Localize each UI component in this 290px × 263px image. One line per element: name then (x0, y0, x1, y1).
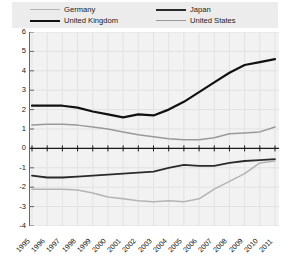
legend-swatch-united-kingdom (30, 20, 60, 22)
y-tick-label: -2 (2, 183, 26, 191)
plot-region: 6543210-1-2-3-4 199519961997199819992000… (0, 30, 290, 263)
x-tick-label: 2008 (211, 236, 229, 254)
x-tick-label: 2004 (151, 236, 169, 254)
series-canvas (30, 32, 279, 226)
chart-legend: Germany Japan United Kingdom United Stat… (12, 2, 278, 28)
legend-label-united-kingdom: United Kingdom (64, 16, 118, 26)
legend-label-japan: Japan (190, 5, 211, 15)
legend-item-germany: Germany (30, 4, 126, 15)
y-tick-label: -1 (2, 164, 26, 172)
legend-item-japan: Japan (156, 4, 236, 15)
x-tick-label: 1996 (29, 236, 47, 254)
x-tick-label: 2001 (105, 236, 123, 254)
y-tick-label: 1 (2, 125, 26, 133)
x-tick-label: 1997 (44, 236, 62, 254)
chart-figure: Germany Japan United Kingdom United Stat… (0, 0, 290, 263)
x-tick-label: 2007 (196, 236, 214, 254)
x-tick-label: 2011 (257, 237, 274, 254)
legend-label-united-states: United States (190, 16, 236, 26)
x-tick-label: 2002 (120, 236, 138, 254)
y-tick-label: 3 (2, 86, 26, 94)
x-tick-label: 2005 (166, 236, 184, 254)
y-tick-label: 0 (2, 144, 26, 152)
y-tick-label: 4 (2, 67, 26, 75)
plot-area (29, 32, 279, 226)
y-axis: 6543210-1-2-3-4 (0, 32, 26, 226)
legend-swatch-germany (30, 9, 60, 10)
y-tick-label: -3 (2, 203, 26, 211)
legend-item-united-states: United States (156, 15, 236, 26)
x-axis: 1995199619971998199920002001200220032004… (29, 228, 278, 263)
legend-swatch-united-states (156, 20, 186, 21)
y-tick-label: 2 (2, 106, 26, 114)
legend-item-united-kingdom: United Kingdom (30, 15, 126, 26)
x-tick-label: 2009 (227, 236, 245, 254)
x-tick-label: 2010 (242, 236, 260, 254)
legend-label-germany: Germany (64, 5, 95, 15)
legend-swatch-japan (156, 9, 186, 11)
y-tick-label: 5 (2, 47, 26, 55)
y-tick-label: -4 (2, 222, 26, 230)
x-tick-label: 1998 (60, 236, 78, 254)
x-tick-label: 1999 (75, 236, 93, 254)
x-tick-label: 2000 (90, 236, 108, 254)
x-tick-label: 2006 (181, 236, 199, 254)
y-tick-label: 6 (2, 28, 26, 36)
x-tick-label: 2003 (136, 236, 154, 254)
x-tick-label: 1995 (14, 236, 32, 254)
